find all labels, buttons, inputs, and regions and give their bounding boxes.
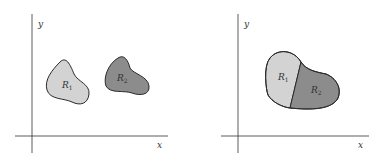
- y-axis-label: y: [243, 19, 250, 29]
- x-axis-label: x: [358, 140, 363, 150]
- diagram-canvas: y x R1 R2 y x R1 R2: [0, 0, 377, 163]
- right-panel: y x R1 R2: [221, 14, 369, 153]
- y-axis-label: y: [37, 19, 44, 29]
- left-panel: y x R1 R2: [15, 14, 168, 153]
- x-axis-label: x: [157, 140, 162, 150]
- region-r2: [105, 57, 149, 95]
